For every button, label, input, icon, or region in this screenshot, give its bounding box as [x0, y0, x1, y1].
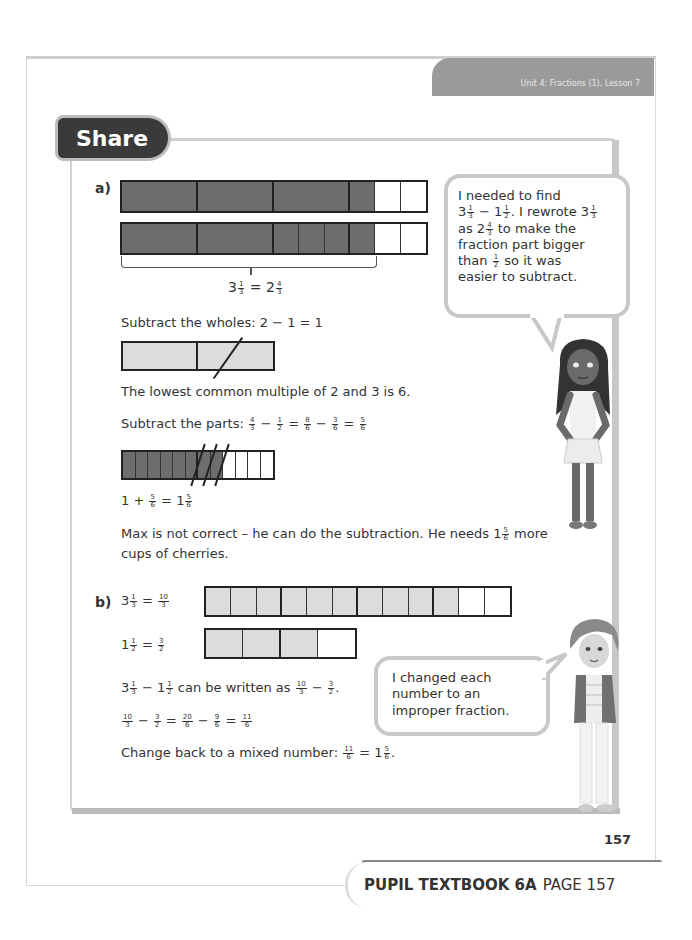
- bar-cell: [375, 182, 400, 211]
- bar-cell: [350, 224, 375, 253]
- fraction: 103: [296, 681, 307, 696]
- bubble-line: number to an: [392, 686, 532, 702]
- footer-book-title: PUPIL TEXTBOOK 6A: [364, 876, 537, 894]
- bubble-line: easier to subtract.: [458, 269, 616, 285]
- part-b-equation-2: 112 = 32: [121, 637, 165, 653]
- mixed-whole: 2: [266, 279, 275, 295]
- part-a-label: a): [95, 180, 111, 197]
- fraction: 206: [182, 714, 193, 729]
- mixed-whole: 3: [228, 279, 237, 295]
- fraction: 86: [304, 417, 310, 432]
- fraction: 56: [149, 494, 155, 509]
- bar-cell: [198, 224, 274, 253]
- bubble-line: I changed each: [392, 670, 532, 686]
- bar-cell: [123, 343, 198, 369]
- subtract-parts-equation: 43 − 12 = 86 − 36 = 56: [248, 416, 367, 431]
- character-girl-b-illustration: [562, 615, 632, 820]
- fraction: 36: [332, 417, 338, 432]
- bubble-line: improper fraction.: [392, 703, 532, 719]
- operator: −: [134, 713, 153, 728]
- bubble-line: I needed to find: [458, 188, 616, 204]
- fraction: 56: [502, 527, 508, 542]
- bar-cell: [122, 182, 198, 211]
- page-number: 157: [604, 832, 631, 847]
- bubble-line: as 243 to make the: [458, 221, 616, 237]
- bar-cell: [333, 588, 358, 615]
- frame-bottom-edge: [72, 808, 620, 814]
- bar-cell: [243, 630, 280, 657]
- operator: =: [221, 713, 240, 728]
- operator: −: [256, 416, 275, 431]
- bar-cell: [198, 182, 274, 211]
- bar-cell: [434, 588, 459, 615]
- fraction: 12: [277, 417, 283, 432]
- bar-cell: [261, 452, 274, 478]
- unit-banner-text: Unit 4: Fractions (1), Lesson 7: [521, 79, 640, 88]
- fraction: 13: [238, 281, 244, 296]
- fraction: 103: [122, 714, 133, 729]
- subtract-parts-label: Subtract the parts:: [121, 416, 244, 431]
- brace-tick: [250, 267, 252, 275]
- operator: =: [284, 416, 303, 431]
- fraction: 13: [467, 205, 473, 220]
- part-b-label: b): [95, 594, 111, 611]
- section-tab-share: Share: [58, 118, 168, 158]
- bar-cell: [459, 588, 484, 615]
- fraction: 96: [214, 714, 220, 729]
- bar-cell: [274, 182, 350, 211]
- bar-cell: [281, 630, 318, 657]
- bar-cell: [206, 588, 231, 615]
- footer-page-ref: PAGE 157: [543, 876, 616, 894]
- fraction: 12: [503, 205, 509, 220]
- bar-cell: [282, 588, 307, 615]
- fraction: 56: [384, 746, 390, 761]
- bar-cell: [325, 224, 350, 253]
- part-b-line-4: 103 − 32 = 206 − 96 = 116: [121, 713, 253, 729]
- sum-equation: 1 + 56 = 156: [121, 493, 193, 509]
- bar-cell: [136, 452, 149, 478]
- fraction: 13: [130, 594, 136, 609]
- bar-cell: [257, 588, 282, 615]
- speech-bubble-b: I changed each number to an improper fra…: [374, 656, 550, 736]
- bubble-line: than 12 so it was: [458, 253, 616, 269]
- brace-bracket: [121, 256, 377, 268]
- bar-model-a2: [120, 222, 428, 255]
- equals-sign: =: [250, 279, 262, 295]
- bar-cell: [401, 182, 426, 211]
- fraction: 103: [158, 594, 169, 609]
- fraction: 32: [328, 681, 334, 696]
- bar-model-b1: [204, 586, 512, 617]
- bar-model-wholes: [121, 341, 275, 371]
- operator: −: [312, 416, 331, 431]
- character-girl-a-illustration: [548, 335, 618, 535]
- fraction: 116: [241, 714, 252, 729]
- fraction: 56: [185, 494, 191, 509]
- bubble-line: fraction part bigger: [458, 237, 616, 253]
- operator: =: [339, 416, 358, 431]
- fraction: 12: [166, 681, 172, 696]
- subtract-wholes-text: Subtract the wholes: 2 − 1 = 1: [121, 315, 323, 331]
- bubble-line: 313 − 112. I rewrote 313: [458, 204, 616, 220]
- lcm-text: The lowest common multiple of 2 and 3 is…: [121, 384, 410, 400]
- fraction: 32: [158, 638, 164, 653]
- conclusion-line-2: cups of cherries.: [121, 546, 229, 562]
- bar-cell: [409, 588, 434, 615]
- fraction: 43: [249, 417, 255, 432]
- bar-cell: [383, 588, 408, 615]
- bar-cell: [358, 588, 383, 615]
- bar-cell: [318, 630, 355, 657]
- bar-cell: [307, 588, 332, 615]
- bar-cell: [206, 630, 243, 657]
- bar-cell: [236, 452, 249, 478]
- bar-cell: [248, 452, 261, 478]
- bar-cell: [173, 452, 186, 478]
- fraction: 43: [276, 281, 282, 296]
- speech-bubble-a: I needed to find 313 − 112. I rewrote 31…: [444, 174, 630, 318]
- operator: =: [162, 713, 181, 728]
- fraction: 13: [590, 205, 596, 220]
- fraction: 13: [130, 681, 136, 696]
- operator: −: [194, 713, 213, 728]
- part-b-line-3: 313 − 112 can be written as 103 − 32.: [121, 680, 339, 696]
- fraction: 12: [493, 254, 499, 269]
- fraction: 56: [360, 417, 366, 432]
